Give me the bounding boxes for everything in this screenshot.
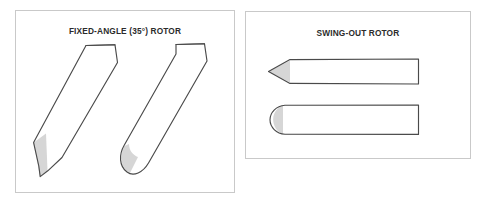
panel-title-swing-out: SWING-OUT ROTOR xyxy=(246,28,470,38)
panel-title-fixed-angle: FIXED-ANGLE (35°) ROTOR xyxy=(16,26,234,36)
panel-swing-out-rotor: SWING-OUT ROTOR xyxy=(245,11,471,159)
panel-fixed-angle-rotor: FIXED-ANGLE (35°) ROTOR xyxy=(15,10,235,193)
rotor-comparison-figure: FIXED-ANGLE (35°) ROTOR SWING-OUT ROTOR xyxy=(0,0,481,201)
